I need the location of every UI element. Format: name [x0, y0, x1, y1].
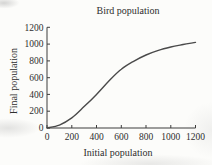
- x-axis-ticks: 020040060080010001200: [45, 125, 206, 142]
- y-axis-ticks: 020040060080010001200: [25, 23, 51, 134]
- x-axis-label: Initial population: [83, 147, 152, 158]
- y-tick-label: 600: [29, 73, 44, 83]
- x-tick-label: 1000: [161, 132, 180, 142]
- bird-population-chart: Bird population Initial population Final…: [0, 0, 212, 165]
- axes: [47, 27, 196, 128]
- x-tick-label: 400: [89, 132, 104, 142]
- x-tick-label: 800: [139, 132, 154, 142]
- y-tick-label: 0: [39, 123, 44, 133]
- x-tick-label: 0: [45, 132, 50, 142]
- y-tick-label: 200: [29, 106, 44, 116]
- y-axis-label: Final population: [8, 48, 19, 114]
- chart-title: Bird population: [96, 5, 159, 16]
- y-tick-label: 800: [29, 56, 44, 66]
- y-tick-label: 1000: [25, 39, 44, 49]
- x-tick-label: 600: [114, 132, 129, 142]
- y-tick-label: 400: [29, 90, 44, 100]
- y-tick-label: 1200: [25, 23, 44, 33]
- x-tick-label: 200: [65, 132, 80, 142]
- x-tick-label: 1200: [186, 132, 205, 142]
- scanned-chart-figure: Bird population Initial population Final…: [0, 0, 212, 165]
- population-curve: [47, 42, 196, 128]
